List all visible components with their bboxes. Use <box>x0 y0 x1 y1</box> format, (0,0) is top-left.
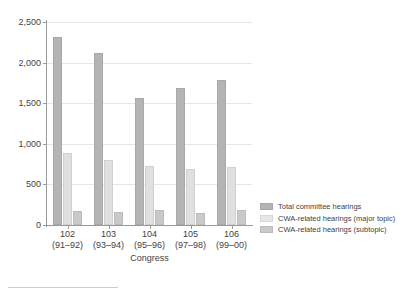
category-number: 102 <box>47 229 88 240</box>
bar <box>176 88 185 225</box>
bar-group <box>135 22 164 225</box>
bar <box>155 210 164 225</box>
y-axis-tick <box>43 144 47 145</box>
category-number: 105 <box>170 229 211 240</box>
bar <box>145 166 154 225</box>
y-axis-tick-label: 500 <box>26 180 41 189</box>
x-axis-category-label: 104(95–96) <box>129 229 170 250</box>
legend-label: CWA-related hearings (subtopic) <box>278 225 387 234</box>
bar <box>135 98 144 225</box>
category-number: 103 <box>88 229 129 240</box>
bar <box>217 80 226 225</box>
x-axis-tick <box>109 225 110 229</box>
y-axis-tick-label: 2,000 <box>18 58 41 67</box>
bar <box>186 169 195 225</box>
y-axis-tick-label: 1,500 <box>18 99 41 108</box>
bar <box>227 167 236 225</box>
category-years: (97–98) <box>170 240 211 251</box>
bar <box>63 153 72 225</box>
bar <box>73 211 82 225</box>
x-axis-category-label: 103(93–94) <box>88 229 129 250</box>
x-axis-tick <box>68 225 69 229</box>
y-axis-tick <box>43 225 47 226</box>
y-axis-tick <box>43 184 47 185</box>
x-axis-tick <box>232 225 233 229</box>
category-number: 104 <box>129 229 170 240</box>
category-years: (91–92) <box>47 240 88 251</box>
legend-item[interactable]: CWA-related hearings (major topic) <box>260 214 395 223</box>
x-axis-category-label: 102(91–92) <box>47 229 88 250</box>
bar-group <box>176 22 205 225</box>
legend-swatch-icon <box>260 226 273 233</box>
bar <box>53 37 62 225</box>
footer-rule <box>8 287 118 288</box>
category-years: (95–96) <box>129 240 170 251</box>
bar <box>196 213 205 225</box>
bar-group <box>53 22 82 225</box>
legend-swatch-icon <box>260 215 273 222</box>
category-years: (93–94) <box>88 240 129 251</box>
y-axis-tick-label: 2,500 <box>18 18 41 27</box>
bar <box>104 160 113 225</box>
legend: Total committee hearingsCWA-related hear… <box>260 202 395 237</box>
bar <box>94 53 103 225</box>
x-axis-category-label: 106(99–00) <box>211 229 252 250</box>
x-axis-tick <box>150 225 151 229</box>
bar-group <box>217 22 246 225</box>
bar <box>114 212 123 225</box>
bar-chart: 05001,0001,5002,0002,500 102(91–92)103(9… <box>0 0 415 298</box>
y-axis-tick <box>43 103 47 104</box>
legend-item[interactable]: CWA-related hearings (subtopic) <box>260 225 395 234</box>
category-number: 106 <box>211 229 252 240</box>
legend-label: Total committee hearings <box>278 202 361 211</box>
y-axis-tick <box>43 22 47 23</box>
y-axis-tick-label: 0 <box>36 221 41 230</box>
legend-label: CWA-related hearings (major topic) <box>278 214 395 223</box>
bar-group <box>94 22 123 225</box>
x-axis-tick <box>191 225 192 229</box>
y-axis-tick-label: 1,000 <box>18 139 41 148</box>
category-years: (99–00) <box>211 240 252 251</box>
plot-area: 05001,0001,5002,0002,500 <box>47 22 252 225</box>
x-axis-category-label: 105(97–98) <box>170 229 211 250</box>
bar <box>237 210 246 225</box>
y-axis-tick <box>43 63 47 64</box>
x-axis-title: Congress <box>46 253 253 263</box>
legend-swatch-icon <box>260 203 273 210</box>
legend-item[interactable]: Total committee hearings <box>260 202 395 211</box>
